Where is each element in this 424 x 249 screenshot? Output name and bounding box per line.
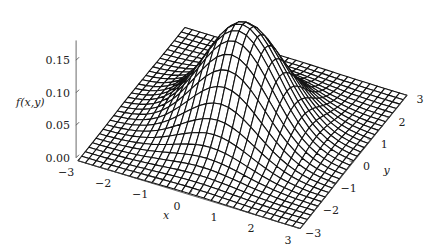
x-axis-label: x (163, 209, 170, 222)
y-axis-label: y (383, 164, 391, 177)
y-tick-label: −2 (323, 204, 339, 217)
z-tick-label: 0.15 (46, 54, 71, 67)
z-tick (76, 57, 79, 60)
z-tick-label: 0.05 (46, 119, 71, 132)
z-tick-label: 0.00 (46, 152, 71, 165)
y-tick-label: −3 (305, 227, 321, 240)
y-tick-label: 2 (399, 116, 406, 129)
x-tick-label: −2 (95, 177, 111, 190)
z-tick (76, 155, 79, 158)
y-tick-label: 0 (363, 160, 370, 173)
z-tick (76, 122, 79, 125)
x-tick-label: 3 (285, 234, 292, 247)
y-tick-label: −1 (341, 182, 357, 195)
z-tick-label: 0.10 (46, 87, 71, 100)
z-axis-label: f(x,y) (15, 96, 45, 109)
surface-mesh (78, 22, 407, 229)
x-tick-label: 0 (174, 200, 181, 213)
surface-plot: −3−2−10123−3−2−101230.000.050.100.15 f(x… (0, 0, 424, 249)
x-tick-label: −3 (58, 166, 74, 179)
y-tick-label: 3 (416, 93, 423, 106)
x-tick-label: −1 (132, 188, 148, 201)
y-tick-label: 1 (381, 138, 388, 151)
x-tick-label: 2 (248, 222, 255, 235)
x-tick-label: 1 (211, 211, 218, 224)
z-tick (76, 90, 79, 93)
